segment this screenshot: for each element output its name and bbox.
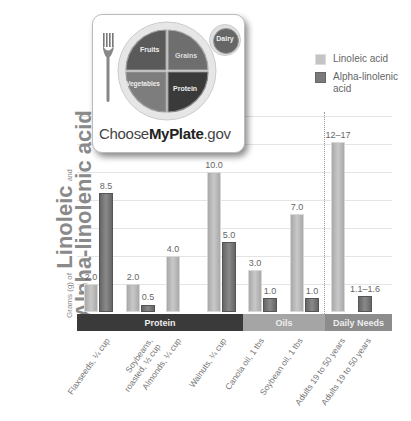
myplate-logo: Fruits Grains Vegetables Protein Dairy C… — [92, 14, 245, 153]
bar-walnut-alpha — [222, 242, 236, 312]
group-banner-daily-needs: Daily Needs — [325, 314, 392, 331]
value-label: 2.0 — [113, 272, 153, 282]
value-label: 1.1–1.6 — [345, 284, 385, 294]
bar-soyoil-alpha — [305, 298, 319, 312]
legend-swatch-linoleic — [315, 54, 326, 65]
value-label: 8.5 — [86, 181, 126, 191]
value-label: 3.0 — [235, 258, 275, 268]
legend-label-linoleic: Linoleic acid — [333, 53, 388, 65]
bar-flax-alpha — [99, 193, 113, 312]
x-label-walnuts: Walnuts, ¼ cup — [187, 336, 229, 389]
dairy-cup: Dairy — [209, 24, 241, 56]
brand-text: ChooseMyPlate.gov — [99, 125, 231, 142]
value-label: 2.0 — [71, 272, 111, 282]
plate-label-vegetables: Vegetables — [126, 80, 160, 87]
value-label: 0.5 — [128, 292, 168, 302]
plate-label-dairy: Dairy — [210, 35, 240, 42]
value-label: 1.0 — [292, 286, 332, 296]
group-banner-oils: Oils — [243, 314, 325, 331]
bar-almond-linoleic — [166, 256, 180, 312]
plate-label-grains: Grains — [175, 52, 197, 59]
legend-label-alpha: Alpha-linolenic acid — [333, 71, 398, 95]
bar-walnut-linoleic — [207, 172, 221, 312]
value-label: 10.0 — [194, 160, 234, 170]
brand-choose: Choose — [99, 125, 149, 142]
legend-label-alpha-line1: Alpha-linolenic — [333, 71, 398, 82]
fork-icon — [102, 33, 114, 103]
group-banner-protein: Protein — [77, 314, 243, 331]
x-label-adults-alpha: Adults 19 to 50 years — [319, 336, 373, 407]
plate-icon — [117, 21, 217, 121]
value-label: 12–17 — [318, 130, 358, 140]
value-label: 7.0 — [277, 202, 317, 212]
bar-adult-alpha — [358, 296, 372, 312]
brand-myplate: MyPlate — [149, 125, 204, 142]
bar-flax-linoleic — [84, 284, 98, 312]
bar-soy-alpha — [141, 305, 155, 312]
plate-label-fruits: Fruits — [140, 46, 159, 53]
plate-label-protein: Protein — [173, 85, 197, 92]
bar-adult-linoleic — [331, 142, 345, 312]
x-label-soybean-oil: Soybean oil, 1 tbs — [258, 336, 305, 397]
daily-needs-separator — [324, 112, 325, 314]
legend-label-alpha-line2: acid — [333, 83, 351, 94]
value-label: 1.0 — [250, 286, 290, 296]
x-label-canola: Canola oil, 1 tbs — [223, 336, 266, 392]
bar-canola-alpha — [263, 298, 277, 312]
value-label: 5.0 — [209, 230, 249, 240]
value-label: 4.0 — [153, 244, 193, 254]
bar-soyoil-linoleic — [290, 214, 304, 312]
brand-gov: .gov — [204, 125, 231, 142]
legend-swatch-alpha — [315, 72, 326, 83]
x-label-flaxseeds: Flaxseeds, ¼ cup — [66, 336, 112, 396]
